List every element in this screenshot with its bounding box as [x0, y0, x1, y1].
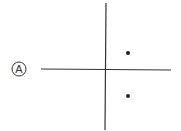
label-text: A — [15, 63, 23, 75]
diagram-canvas: A — [0, 0, 181, 131]
vertical-axis — [105, 3, 106, 130]
point-lower — [126, 94, 130, 98]
label-a: A — [12, 62, 26, 76]
point-upper — [126, 51, 130, 55]
